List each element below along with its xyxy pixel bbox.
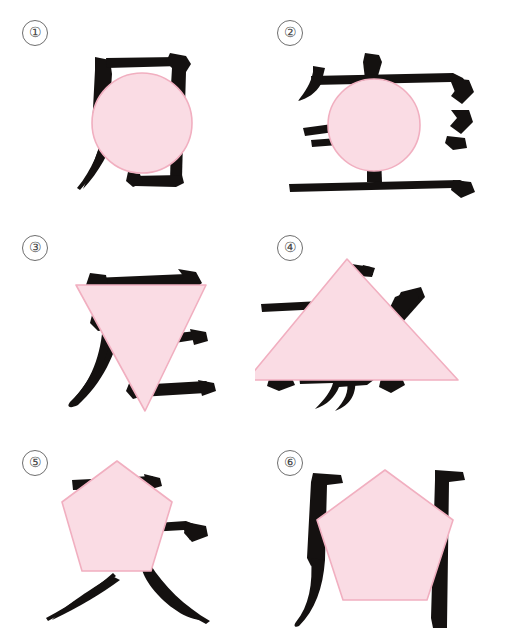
worksheet-sheet: ① <box>0 0 509 644</box>
panel-6: ⑥ <box>255 430 509 644</box>
panel-1: ① <box>0 0 254 214</box>
pink-pentagon <box>255 430 509 644</box>
pink-inverted-triangle <box>0 215 254 429</box>
pink-circle <box>255 0 509 214</box>
panel-stage-5 <box>0 430 254 644</box>
pink-pentagon <box>0 430 254 644</box>
panel-4: ④ <box>255 215 509 429</box>
pink-triangle <box>255 215 509 429</box>
panel-stage-3 <box>0 215 254 429</box>
panel-2: ② <box>255 0 509 214</box>
panel-stage-1 <box>0 0 254 214</box>
pink-circle <box>0 0 254 214</box>
panel-stage-2 <box>255 0 509 214</box>
panel-stage-6 <box>255 430 509 644</box>
panel-3: ③ <box>0 215 254 429</box>
panel-5: ⑤ <box>0 430 254 644</box>
panel-stage-4 <box>255 215 509 429</box>
